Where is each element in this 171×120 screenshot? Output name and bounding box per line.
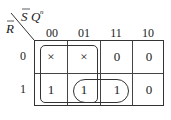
col-header-00: 00 bbox=[36, 27, 68, 39]
cell-r1-c10: 0 bbox=[133, 74, 165, 106]
col-var-s-label: S bbox=[21, 10, 28, 23]
col-var-q-superscript: n bbox=[40, 8, 44, 16]
col-header-01: 01 bbox=[68, 27, 100, 39]
col-var-q-label: Q bbox=[31, 10, 40, 23]
row-header-1: 1 bbox=[17, 83, 29, 95]
col-header-10: 10 bbox=[132, 27, 164, 39]
karnaugh-map-grid: × × 0 0 1 1 1 0 bbox=[34, 40, 164, 106]
row-var-r-label: R bbox=[6, 22, 14, 35]
cell-r0-c10: 0 bbox=[133, 41, 165, 73]
row-header-0: 0 bbox=[17, 50, 29, 62]
group-loop-row1-01-11 bbox=[73, 79, 129, 103]
col-header-11: 11 bbox=[100, 27, 132, 39]
cell-r0-c11: 0 bbox=[101, 41, 133, 73]
